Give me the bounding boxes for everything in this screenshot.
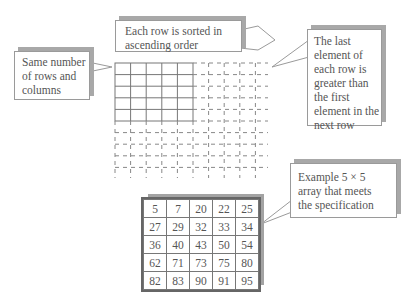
solid-grid [115, 63, 193, 121]
array-cell: 20 [190, 200, 213, 218]
array-cell: 82 [144, 272, 167, 290]
pointer-right [272, 40, 309, 67]
dashed-grid-right [193, 63, 268, 178]
array-cell: 50 [213, 236, 236, 254]
pointer-left [88, 62, 112, 72]
dashed-grid-bottom [115, 121, 268, 178]
array-row: 82 83 90 91 95 [144, 272, 259, 290]
array-cell: 80 [236, 254, 259, 272]
example-array: 5 7 20 22 25 27 29 32 33 34 36 40 43 50 … [143, 199, 259, 290]
array-cell: 62 [144, 254, 167, 272]
array-cell: 54 [236, 236, 259, 254]
pointer-bottom [261, 200, 292, 224]
array-cell: 91 [213, 272, 236, 290]
array-cell: 22 [213, 200, 236, 218]
array-cell: 90 [190, 272, 213, 290]
array-cell: 71 [167, 254, 190, 272]
array-row: 27 29 32 33 34 [144, 218, 259, 236]
callout-row-sorted: Each row is sorted in ascending order [115, 20, 242, 52]
array-cell: 34 [236, 218, 259, 236]
callout-example-text: Example 5 × 5 array that meets the speci… [298, 170, 396, 212]
array-cell: 36 [144, 236, 167, 254]
array-cell: 75 [213, 254, 236, 272]
callout-square: Same number of rows and columns [14, 51, 90, 100]
array-cell: 33 [213, 218, 236, 236]
array-cell: 43 [190, 236, 213, 254]
array-cell: 25 [236, 200, 259, 218]
callout-row-order-text: The last element of each row is greater … [314, 34, 381, 132]
array-cell: 29 [167, 218, 190, 236]
array-cell: 7 [167, 200, 190, 218]
callout-row-sorted-text: Each row is sorted in ascending order [125, 24, 241, 52]
array-cell: 27 [144, 218, 167, 236]
array-row: 36 40 43 50 54 [144, 236, 259, 254]
array-cell: 73 [190, 254, 213, 272]
array-cell: 95 [236, 272, 259, 290]
pointer-top [240, 26, 275, 50]
array-row: 5 7 20 22 25 [144, 200, 259, 218]
callout-example: Example 5 × 5 array that meets the speci… [290, 163, 397, 218]
array-cell: 40 [167, 236, 190, 254]
callout-square-text: Same number of rows and columns [22, 55, 89, 97]
array-cell: 5 [144, 200, 167, 218]
callout-row-order: The last element of each row is greater … [307, 29, 382, 126]
array-cell: 83 [167, 272, 190, 290]
array-row: 62 71 73 75 80 [144, 254, 259, 272]
array-cell: 32 [190, 218, 213, 236]
